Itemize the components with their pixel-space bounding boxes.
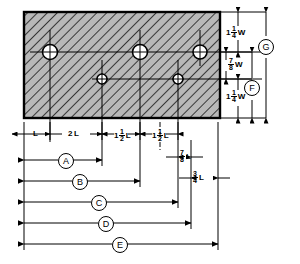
- dim-78L-unit: L: [186, 153, 191, 161]
- balloon-D: D: [98, 216, 114, 232]
- dim-34L-fraction: 3 4: [192, 171, 198, 184]
- balloon-F-label: F: [249, 83, 255, 93]
- plate-section: [24, 12, 220, 118]
- dim-1-1-4W-bottom: 1 1 4 W: [226, 90, 245, 103]
- dim-mid-unit: W: [235, 61, 243, 69]
- dim-7-8L-text: 7 8 L: [179, 150, 191, 163]
- balloon-B: B: [72, 174, 88, 190]
- balloon-D-label: D: [103, 219, 110, 229]
- dim-2L-text: 2 L: [68, 130, 79, 138]
- dim-a-fraction: 1 2: [119, 129, 125, 142]
- drawing-canvas: [0, 0, 300, 264]
- dim-a-unit: L: [126, 132, 131, 140]
- dim-L-unit: L: [33, 130, 38, 138]
- dim-b-unit: L: [164, 132, 169, 140]
- balloon-C: C: [91, 195, 107, 211]
- dim-2L-unit: L: [74, 130, 79, 138]
- balloon-E-label: E: [117, 240, 123, 250]
- stacked-dimension-group: [24, 160, 218, 244]
- dim-1-1-2L-a-text: 1 1 2 L: [114, 129, 131, 142]
- dim-3-4L-text: 3 4 L: [192, 171, 204, 184]
- dim-34L-unit: L: [199, 174, 204, 182]
- balloon-C-label: C: [96, 198, 103, 208]
- dim-b-whole: 1: [152, 132, 156, 140]
- dim-1-1-4W-top: 1 1 4 W: [226, 26, 245, 39]
- balloon-A: A: [58, 153, 74, 169]
- dim-top-unit: W: [238, 29, 246, 37]
- dim-b-fraction: 1 2: [157, 129, 163, 142]
- dim-a-whole: 1: [114, 132, 118, 140]
- balloon-G-text: G: [259, 40, 273, 54]
- dim-7-8W: 7 8 W: [228, 58, 242, 71]
- balloon-B-label: B: [77, 177, 83, 187]
- dim-bot-fraction: 1 4: [231, 90, 237, 103]
- dim-top-whole: 1: [226, 29, 230, 37]
- dim-78L-fraction: 7 8: [179, 150, 185, 163]
- technical-drawing: A B C D E F G 1 1 4 W 7 8 W 1 1 4 W L 2 …: [0, 0, 300, 264]
- dim-mid-fraction: 7 8: [228, 58, 234, 71]
- dim-1-1-2L-b-text: 1 1 2 L: [152, 129, 169, 142]
- balloon-F-text: F: [245, 81, 259, 95]
- balloon-E: E: [112, 237, 128, 253]
- dim-2L-whole: 2: [68, 130, 72, 138]
- balloon-A-label: A: [63, 156, 69, 166]
- balloon-G-label: G: [262, 42, 269, 52]
- dim-bot-whole: 1: [226, 93, 230, 101]
- dim-bot-unit: W: [238, 93, 246, 101]
- dim-top-fraction: 1 4: [231, 26, 237, 39]
- dim-L-text: L: [32, 130, 38, 138]
